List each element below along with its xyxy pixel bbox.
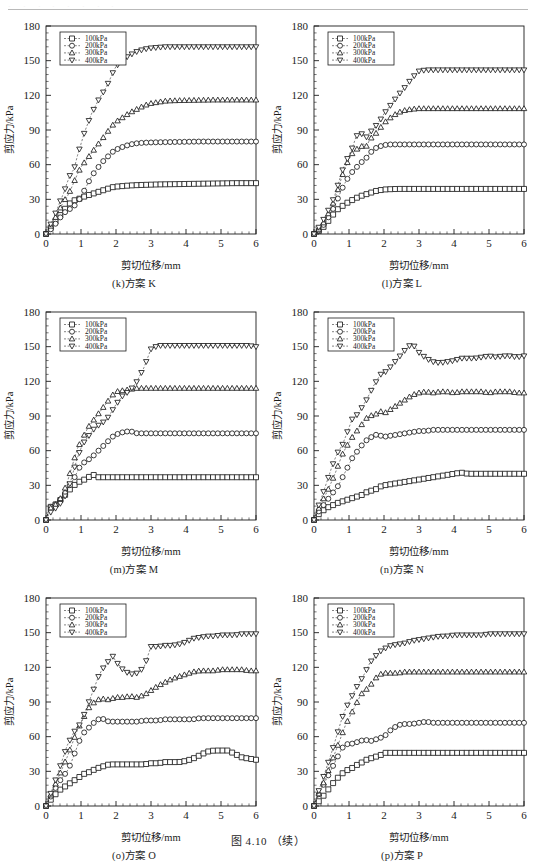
series-marker (239, 475, 244, 480)
series-marker (359, 677, 365, 682)
series-marker (234, 716, 239, 721)
series-marker (225, 97, 231, 102)
chart-caption-n: (n)方案 N (268, 561, 536, 576)
series-marker (445, 720, 450, 725)
series-marker (172, 344, 178, 349)
series-line (314, 189, 524, 234)
series-marker (168, 475, 173, 480)
series-marker (239, 385, 245, 390)
series-marker (493, 186, 498, 191)
series-marker (211, 181, 216, 186)
series-marker (172, 760, 177, 765)
series-marker (445, 750, 450, 755)
series-marker (177, 344, 183, 349)
series-marker (125, 143, 130, 148)
series-marker (120, 475, 125, 480)
x-tick-label: 1 (346, 523, 352, 535)
series-marker (172, 431, 177, 436)
series-marker (206, 181, 211, 186)
series-marker (177, 759, 182, 764)
series-marker (106, 186, 111, 191)
series-marker (101, 188, 106, 193)
legend-marker (70, 322, 75, 327)
series-marker (417, 720, 422, 725)
series-marker (502, 186, 507, 191)
series-marker (225, 475, 230, 480)
series-marker (493, 750, 498, 755)
series-marker (249, 181, 254, 186)
series-marker (139, 371, 145, 376)
series-marker (149, 761, 154, 766)
series-marker (488, 632, 494, 637)
series-marker (469, 633, 475, 638)
x-tick-label: 6 (521, 237, 527, 249)
y-tick-label: 150 (292, 340, 309, 352)
legend-marker (338, 608, 343, 613)
x-tick-label: 0 (43, 809, 49, 821)
series-marker (512, 106, 518, 111)
series-marker (330, 755, 336, 760)
y-tick-label: 180 (292, 306, 309, 318)
series-marker (110, 719, 115, 724)
series-marker (483, 427, 488, 432)
series-marker (234, 667, 240, 672)
series-marker (378, 188, 383, 193)
series-marker (374, 487, 379, 492)
series-marker (220, 475, 225, 480)
legend-label: 400kPa (353, 56, 376, 65)
series-marker (412, 142, 417, 147)
series-marker (483, 354, 489, 359)
series-marker (91, 700, 97, 705)
chart-m: 03060901201501800123456剪切位移/mm剪应力/kPa100… (0, 298, 268, 576)
series-marker (431, 142, 436, 147)
series-marker (115, 475, 120, 480)
series-marker (454, 633, 460, 638)
series-marker (96, 189, 101, 194)
series-marker (249, 139, 254, 144)
series-marker (383, 483, 388, 488)
series-marker (507, 632, 513, 637)
series-marker (502, 68, 508, 73)
series-marker (182, 672, 188, 677)
series-marker (402, 186, 407, 191)
page-header-ghost-text: 。 。 。 。 。 。 。 。 (8, 0, 528, 7)
series-marker (158, 760, 163, 765)
series-300kPa (43, 385, 259, 522)
series-marker (455, 471, 460, 476)
series-marker (369, 681, 375, 686)
series-marker (483, 186, 488, 191)
y-tick-label: 60 (29, 730, 41, 742)
x-tick-label: 0 (311, 237, 317, 249)
series-marker (393, 187, 398, 192)
series-marker (129, 142, 134, 147)
series-marker (388, 142, 393, 147)
x-axis: 0123456 (43, 801, 259, 821)
series-marker (134, 431, 139, 436)
series-marker (91, 147, 97, 152)
x-tick-label: 6 (253, 523, 259, 535)
y-axis-label: 剪应力/kPa (3, 677, 15, 726)
series-marker (210, 97, 216, 102)
series-marker (196, 716, 201, 721)
series-marker (440, 720, 445, 725)
series-marker (364, 192, 369, 197)
series-marker (172, 45, 178, 50)
series-marker (177, 475, 182, 480)
series-marker (464, 356, 470, 361)
series-marker (483, 750, 488, 755)
y-tick-label: 150 (24, 340, 41, 352)
series-marker (459, 106, 465, 111)
series-marker (244, 632, 250, 637)
series-marker (101, 696, 107, 701)
series-marker (72, 203, 77, 208)
x-tick-label: 6 (521, 523, 527, 535)
series-marker (488, 106, 494, 111)
series-marker (182, 475, 187, 480)
series-marker (431, 106, 437, 111)
series-marker (469, 68, 475, 73)
series-marker (172, 643, 178, 648)
series-marker (244, 475, 249, 480)
series-marker (426, 389, 432, 394)
series-marker (397, 109, 403, 114)
series-marker (364, 757, 369, 762)
